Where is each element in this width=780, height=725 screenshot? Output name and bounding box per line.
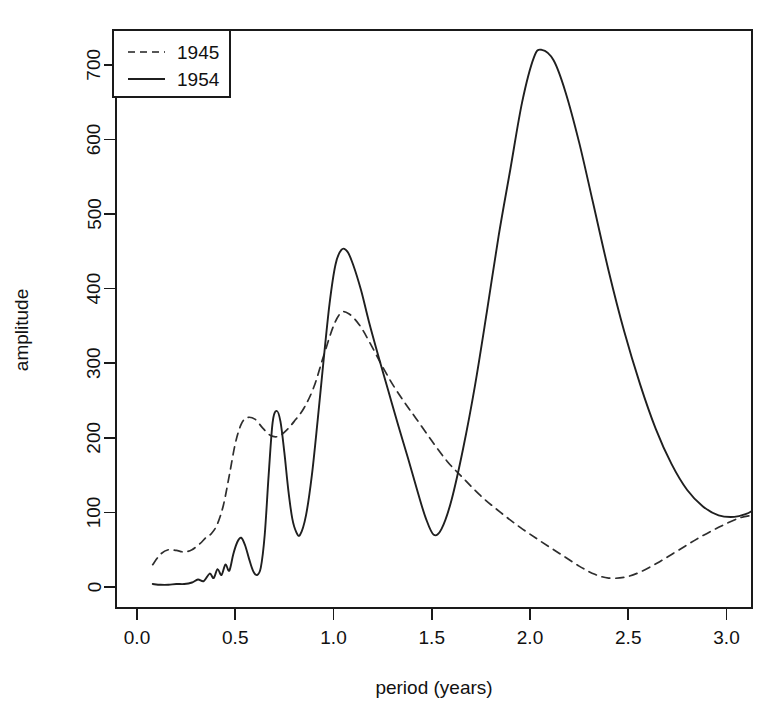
chart-figure: 0.00.51.01.52.02.53.0 010020030040050060… (0, 0, 780, 725)
x-tick-label: 1.0 (320, 627, 346, 648)
series-line-1954 (153, 50, 752, 585)
x-tick-label: 1.5 (419, 627, 445, 648)
x-axis-title: period (years) (375, 677, 492, 698)
x-tick-label: 3.0 (713, 627, 739, 648)
legend-label-1945: 1945 (177, 42, 219, 63)
y-tick-label: 500 (84, 198, 105, 230)
y-tick-label: 700 (84, 49, 105, 81)
x-tick-label: 2.5 (615, 627, 641, 648)
x-tick-label: 0.0 (124, 627, 150, 648)
x-axis-ticks: 0.00.51.01.52.02.53.0 (124, 608, 740, 648)
y-axis-title: amplitude (11, 289, 32, 371)
y-tick-label: 300 (84, 347, 105, 379)
y-tick-label: 400 (84, 273, 105, 305)
chart-legend: 1945 1954 (113, 30, 230, 97)
x-tick-label: 2.0 (517, 627, 543, 648)
y-tick-label: 100 (84, 497, 105, 529)
legend-label-1954: 1954 (177, 69, 220, 90)
plot-frame (116, 30, 752, 608)
data-series-group (153, 50, 752, 585)
x-tick-label: 0.5 (222, 627, 248, 648)
y-tick-label: 600 (84, 124, 105, 156)
y-axis-ticks: 0100200300400500600700 (84, 49, 117, 592)
y-tick-label: 200 (84, 422, 105, 454)
amplitude-period-line-chart: 0.00.51.01.52.02.53.0 010020030040050060… (0, 0, 780, 725)
y-tick-label: 0 (84, 582, 105, 593)
